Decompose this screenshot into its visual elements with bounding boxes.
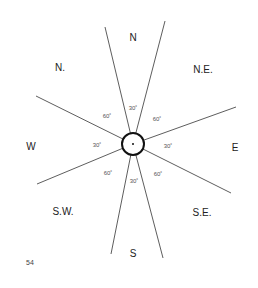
compass-diagram bbox=[0, 0, 258, 288]
angle-top-left: 60˚ bbox=[103, 113, 112, 119]
label-s: S bbox=[130, 248, 137, 259]
label-se: S.E. bbox=[193, 207, 212, 218]
ray-wsw bbox=[37, 144, 133, 184]
label-n: N bbox=[129, 32, 136, 43]
angle-top: 30˚ bbox=[129, 105, 138, 111]
angle-bottom-left: 60˚ bbox=[104, 170, 113, 176]
label-e: E bbox=[232, 142, 239, 153]
ray-ese bbox=[133, 144, 231, 193]
angle-right: 30˚ bbox=[164, 143, 173, 149]
ray-ssw bbox=[111, 144, 133, 254]
label-w: W bbox=[26, 141, 35, 152]
ray-wnw bbox=[36, 96, 133, 144]
label-sw: S.W. bbox=[52, 206, 73, 217]
angle-bottom: 30˚ bbox=[130, 178, 139, 184]
ray-sse bbox=[133, 144, 163, 258]
label-nw: N. bbox=[55, 62, 65, 73]
angle-bottom-right: 60˚ bbox=[154, 171, 163, 177]
angle-top-right: 60˚ bbox=[153, 116, 162, 122]
page-number: 54 bbox=[26, 259, 34, 266]
angle-left: 30˚ bbox=[93, 142, 102, 148]
ray-nne bbox=[133, 21, 165, 144]
label-ne: N.E. bbox=[193, 64, 212, 75]
ray-ene bbox=[133, 107, 236, 144]
center-dot bbox=[132, 143, 134, 145]
ray-nnw bbox=[105, 27, 133, 144]
